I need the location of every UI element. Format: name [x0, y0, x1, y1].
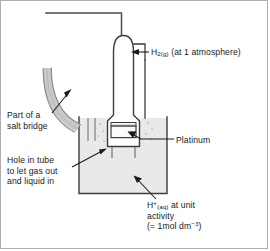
label-hole-line2: to let gas out: [7, 166, 58, 176]
label-salt-bridge: Part of asalt bridge: [7, 110, 79, 131]
label-hole-line1: Hole in tube: [7, 155, 54, 165]
label-hole-in-tube: Hole in tubeto let gas outand liquid in: [7, 155, 89, 187]
label-hydrogen-pressure: (at 1 atmosphere): [171, 47, 241, 57]
label-acid-solution: H+(aq) at unitactivity(= 1mol dm−3): [147, 200, 233, 232]
label-hydrogen-gas: H2(g) (at 1 atmosphere): [151, 47, 241, 58]
hydrogen-electrode-figure: H2(g) (at 1 atmosphere) Part of asalt br…: [0, 0, 270, 251]
gas-outlet-pipe: [46, 13, 122, 39]
label-platinum: Platinum: [176, 135, 210, 146]
label-acid-state: (aq): [157, 203, 168, 210]
label-acid-rest: at unit: [168, 200, 195, 210]
label-acid-line3-pre: (= 1mol dm: [147, 221, 191, 231]
label-hole-line3: and liquid in: [7, 176, 54, 186]
label-salt-bridge-line1: Part of a: [7, 110, 40, 120]
label-salt-bridge-line2: salt bridge: [7, 121, 48, 131]
label-acid-line2: activity: [147, 211, 174, 221]
label-acid-line3-post: ): [199, 221, 202, 231]
label-acid-line3-exponent: −3: [191, 221, 198, 228]
label-hydrogen-subscript: 2(g): [157, 50, 168, 57]
